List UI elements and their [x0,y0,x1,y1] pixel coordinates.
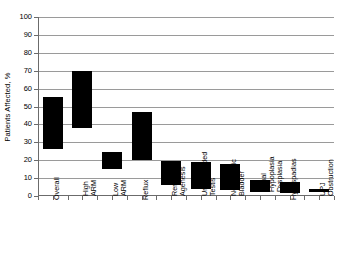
x-tick-mark [171,196,172,200]
x-axis-label-text: HighARM [82,180,98,196]
x-axis-label-text: UPJObstruction [319,159,335,196]
x-axis-label-line: Agenesis [179,166,187,196]
bar [132,112,152,160]
x-axis-label-text: Hypospadias [290,158,298,200]
bar [72,71,92,128]
x-axis-label-line: ARM [91,180,99,196]
x-axis-label-line: Obstruction [327,159,335,196]
x-tick-mark [304,196,305,200]
x-tick-mark [201,196,202,200]
x-axis-label-text: Overall [53,177,61,200]
gridline [38,35,334,36]
y-tick-label: 10 [24,174,32,182]
x-axis-label-line: Reflux [142,180,150,200]
x-axis-label-line: ARM [120,180,128,196]
x-tick-mark [112,196,113,200]
x-tick-mark [186,196,187,200]
y-tick-label: 40 [24,121,32,129]
x-axis-label-text: NeurogenicBladder [230,159,246,196]
x-axis-label-text: UndescendedTestis [201,151,217,195]
x-tick-mark [319,196,320,200]
y-axis-line [38,17,39,196]
x-tick-mark [68,196,69,200]
y-tick-label: 90 [24,31,32,39]
x-tick-mark [127,196,128,200]
x-tick-mark [245,196,246,200]
y-axis-title-container: Patients Affected, % [0,18,14,196]
y-tick-label: 80 [24,49,32,57]
y-tick-label: 100 [19,13,32,21]
gridline [38,142,334,143]
bar [102,152,122,169]
y-tick-label: 30 [24,139,32,147]
x-axis-labels-group: OverallHighARMLowARMRefluxRenalAgenesisU… [38,201,334,270]
x-tick-mark [334,196,335,200]
x-tick-mark [38,196,39,200]
x-axis-label-line: Overall [53,177,61,200]
gridline [38,53,334,54]
x-tick-mark [97,196,98,200]
x-tick-mark [275,196,276,200]
x-axis-label-text: RenalAgenesis [171,166,187,196]
y-tick-label: 50 [24,103,32,111]
x-tick-mark [82,196,83,200]
gridline [38,17,334,18]
x-axis-label-text: Reflux [142,180,150,200]
chart-figure: Patients Affected, % 0102030405060708090… [0,0,338,270]
x-axis-label-text: LowARM [112,180,128,196]
x-axis-label-line: Testis [209,151,217,195]
x-tick-mark [216,196,217,200]
y-tick-label: 0 [28,192,32,200]
bar [43,97,63,150]
x-tick-mark [156,196,157,200]
y-axis-title: Patients Affected, % [3,73,12,142]
x-axis-label-line: Dysplasia [276,156,284,192]
y-tick-label: 70 [24,67,32,75]
x-axis-label-line: Hypospadias [290,158,298,200]
y-tick-label: 20 [24,156,32,164]
y-tick-label: 60 [24,85,32,93]
x-tick-mark [260,196,261,200]
x-tick-mark [230,196,231,200]
x-axis-label-text: RenalHypoplasiaDysplasia [260,156,285,192]
x-axis-label-line: Bladder [239,159,247,196]
